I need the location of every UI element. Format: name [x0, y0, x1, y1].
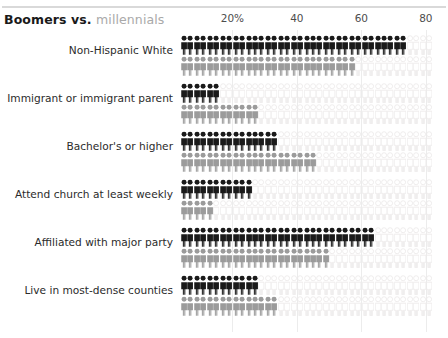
- figure-empty: [336, 152, 342, 172]
- figure-empty: [271, 104, 277, 124]
- row-label-1: Immigrant or immigrant parent: [0, 92, 173, 104]
- figure-filled: [226, 275, 232, 295]
- figure-empty: [278, 200, 284, 220]
- figure-empty: [394, 200, 400, 220]
- figure-filled: [181, 200, 187, 220]
- figure-filled: [291, 35, 297, 55]
- row-label-3: Attend church at least weekly: [0, 188, 173, 200]
- figure-filled: [181, 227, 187, 247]
- figure-empty: [362, 83, 368, 103]
- figure-filled: [181, 104, 187, 124]
- figure-empty: [316, 131, 322, 151]
- figure-empty: [323, 131, 329, 151]
- figure-empty: [278, 104, 284, 124]
- figure-filled: [246, 179, 252, 199]
- figure-filled: [220, 35, 226, 55]
- figure-empty: [310, 104, 316, 124]
- figure-empty: [407, 56, 413, 76]
- figure-filled: [316, 35, 322, 55]
- figure-filled: [213, 131, 219, 151]
- figure-filled: [213, 248, 219, 268]
- figure-empty: [304, 131, 310, 151]
- figure-empty: [336, 275, 342, 295]
- figure-empty: [329, 152, 335, 172]
- figure-filled: [349, 56, 355, 76]
- figure-filled: [239, 152, 245, 172]
- figure-empty: [323, 200, 329, 220]
- figure-filled: [194, 83, 200, 103]
- figure-filled: [265, 152, 271, 172]
- figure-filled: [355, 227, 361, 247]
- figure-empty: [362, 248, 368, 268]
- figure-empty: [362, 131, 368, 151]
- figure-filled: [194, 179, 200, 199]
- figure-filled: [226, 56, 232, 76]
- figure-empty: [336, 248, 342, 268]
- figure-filled: [342, 56, 348, 76]
- figure-empty: [329, 83, 335, 103]
- figure-filled: [181, 152, 187, 172]
- figure-empty: [284, 104, 290, 124]
- figure-empty: [381, 131, 387, 151]
- figure-filled: [342, 35, 348, 55]
- figure-filled: [252, 248, 258, 268]
- figure-filled: [239, 104, 245, 124]
- figure-empty: [400, 227, 406, 247]
- figure-empty: [400, 56, 406, 76]
- figure-filled: [187, 56, 193, 76]
- figure-empty: [368, 296, 374, 316]
- figure-filled: [258, 131, 264, 151]
- figure-filled: [284, 56, 290, 76]
- figure-empty: [336, 296, 342, 316]
- figure-empty: [252, 83, 258, 103]
- figure-filled: [213, 35, 219, 55]
- figure-filled: [342, 227, 348, 247]
- figure-empty: [426, 104, 432, 124]
- figure-filled: [187, 83, 193, 103]
- figure-filled: [220, 296, 226, 316]
- figure-filled: [187, 248, 193, 268]
- figure-filled: [213, 83, 219, 103]
- figure-empty: [355, 248, 361, 268]
- x-axis-tick-label-40: 40: [290, 12, 303, 24]
- figure-filled: [316, 227, 322, 247]
- figure-filled: [200, 179, 206, 199]
- figure-empty: [297, 131, 303, 151]
- figure-empty: [375, 131, 381, 151]
- figure-filled: [213, 296, 219, 316]
- chart-row: Live in most-dense counties: [0, 273, 448, 321]
- figure-empty: [329, 131, 335, 151]
- figure-empty: [323, 296, 329, 316]
- figure-empty: [426, 227, 432, 247]
- figure-empty: [329, 248, 335, 268]
- figure-empty: [387, 56, 393, 76]
- figure-empty: [413, 275, 419, 295]
- figure-empty: [342, 200, 348, 220]
- figure-filled: [187, 179, 193, 199]
- figure-filled: [187, 200, 193, 220]
- figure-filled: [233, 275, 239, 295]
- figure-filled: [329, 56, 335, 76]
- figure-filled: [220, 275, 226, 295]
- figure-filled: [375, 35, 381, 55]
- figure-filled: [252, 227, 258, 247]
- figure-empty: [355, 56, 361, 76]
- figure-empty: [413, 227, 419, 247]
- figure-empty: [381, 200, 387, 220]
- figure-filled: [271, 56, 277, 76]
- figure-filled: [355, 35, 361, 55]
- figure-empty: [355, 179, 361, 199]
- figure-empty: [400, 248, 406, 268]
- figure-filled: [246, 275, 252, 295]
- figure-filled: [207, 83, 213, 103]
- figure-filled: [246, 248, 252, 268]
- figure-empty: [413, 179, 419, 199]
- figure-empty: [310, 200, 316, 220]
- figure-filled: [381, 35, 387, 55]
- figure-empty: [368, 152, 374, 172]
- figure-empty: [381, 296, 387, 316]
- figure-filled: [271, 131, 277, 151]
- figure-filled: [194, 56, 200, 76]
- figure-filled: [252, 296, 258, 316]
- figure-filled: [271, 227, 277, 247]
